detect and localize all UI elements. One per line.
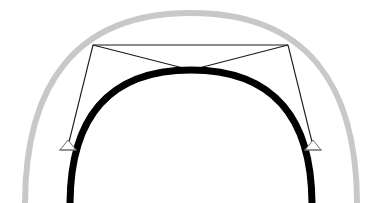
figure-canvas bbox=[0, 0, 382, 203]
arch-diagram-svg bbox=[0, 0, 382, 203]
figure-background bbox=[0, 0, 382, 203]
